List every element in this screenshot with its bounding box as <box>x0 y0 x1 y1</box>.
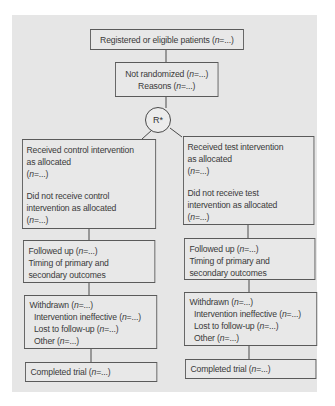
test-followed-up-label: Followed up (n=...) <box>189 243 310 255</box>
control-not-received-line1: Did not receive control <box>27 190 152 202</box>
control-received-line1: Received control intervention <box>27 144 152 156</box>
control-received-count: (n=...) <box>27 168 152 180</box>
test-not-received-line2: intervention as allocated <box>188 199 310 211</box>
randomization-label: R* <box>153 115 163 125</box>
control-withdrawn-box: Withdrawn (n=...) Intervention ineffecti… <box>24 295 157 349</box>
registered-patients-label: Registered or eligible patients (n=...) <box>91 34 243 46</box>
randomization-node: R* <box>145 107 171 133</box>
test-withdrawn-box: Withdrawn (n=...) Intervention ineffecti… <box>184 292 317 346</box>
test-completed-label: Completed trial (n=...) <box>190 363 311 375</box>
control-lost-followup-label: Lost to follow-up (n=...) <box>29 323 151 335</box>
not-randomized-box: Not randomized (n=...) Reasons (n=...) <box>115 62 219 97</box>
test-timing-line2: secondary outcomes <box>189 267 310 279</box>
control-timing-line1: Timing of primary and <box>28 257 149 269</box>
not-randomized-label: Not randomized (n=...) <box>116 68 218 80</box>
control-completed-label: Completed trial (n=...) <box>30 366 151 378</box>
test-received-line2: as allocated <box>188 153 310 165</box>
test-withdrawn-label: Withdrawn (n=...) <box>189 296 311 308</box>
test-received-line1: Received test intervention <box>188 141 310 153</box>
control-followup-box: Followed up (n=...) Timing of primary an… <box>23 240 155 283</box>
test-allocation-box: Received test intervention as allocated … <box>183 136 314 225</box>
test-not-received-count: (n=...) <box>188 211 310 223</box>
test-followup-box: Followed up (n=...) Timing of primary an… <box>184 238 315 280</box>
test-timing-line1: Timing of primary and <box>189 255 310 267</box>
control-received-line2: as allocated <box>27 156 152 168</box>
test-ineffective-label: Intervention ineffective (n=...) <box>189 308 311 320</box>
control-allocation-box: Received control intervention as allocat… <box>22 139 156 229</box>
test-received-count: (n=...) <box>188 165 310 177</box>
test-lost-followup-label: Lost to follow-up (n=...) <box>189 320 311 332</box>
control-other-label: Other (n=...) <box>29 335 151 347</box>
registered-patients-box: Registered or eligible patients (n=...) <box>90 29 244 50</box>
reasons-label: Reasons (n=...) <box>116 80 218 92</box>
control-timing-line2: secondary outcomes <box>28 269 149 281</box>
control-ineffective-label: Intervention ineffective (n=...) <box>29 311 151 323</box>
control-followed-up-label: Followed up (n=...) <box>28 245 149 257</box>
test-not-received-line1: Did not receive test <box>188 187 310 199</box>
control-completed-box: Completed trial (n=...) <box>25 362 157 382</box>
test-completed-box: Completed trial (n=...) <box>185 359 316 379</box>
control-not-received-count: (n=...) <box>27 214 152 226</box>
test-other-label: Other (n=...) <box>189 332 311 344</box>
control-not-received-line2: intervention as allocated <box>27 202 152 214</box>
control-withdrawn-label: Withdrawn (n=...) <box>29 299 151 311</box>
